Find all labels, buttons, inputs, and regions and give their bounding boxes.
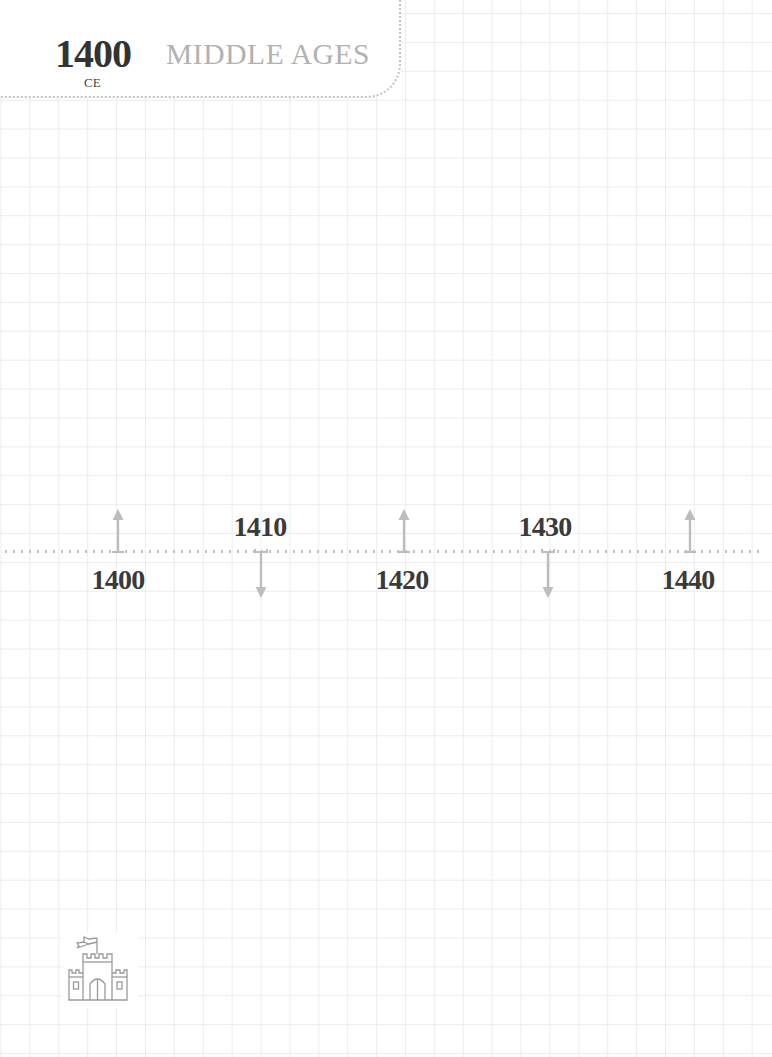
tick-label-1420: 1420 bbox=[362, 565, 442, 595]
header-title: MIDDLE AGES bbox=[166, 36, 370, 72]
tick-down-arrow-icon bbox=[536, 548, 560, 598]
tick-up-arrow-icon bbox=[678, 506, 702, 556]
tick-label-1410: 1410 bbox=[220, 512, 300, 542]
tick-label-1400: 1400 bbox=[78, 565, 158, 595]
tick-label-1430: 1430 bbox=[505, 512, 585, 542]
castle-icon bbox=[62, 932, 138, 1008]
header-era-label: CE bbox=[84, 76, 101, 90]
header-year: 1400 bbox=[55, 31, 131, 77]
tick-label-1440: 1440 bbox=[648, 565, 728, 595]
tick-up-arrow-icon bbox=[392, 506, 416, 556]
tick-down-arrow-icon bbox=[249, 548, 273, 598]
tick-up-arrow-icon bbox=[106, 506, 130, 556]
